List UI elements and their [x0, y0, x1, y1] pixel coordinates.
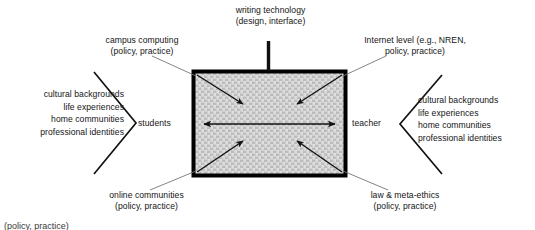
- teacher-attribute-list: cultural backgrounds life experiences ho…: [418, 94, 533, 144]
- actor-label-students: students: [138, 118, 184, 129]
- writing-technology-line-1: writing technology: [198, 5, 343, 16]
- students-attribute-list: cultural backgrounds life experiences ho…: [6, 88, 124, 138]
- writing-technology-line-2: (design, interface): [198, 16, 343, 27]
- connector-law-meta-ethics: [343, 171, 388, 190]
- teacher-attribute-item: life experiences: [418, 107, 533, 120]
- students-attribute-item: professional identities: [6, 126, 124, 139]
- node-label-internet-level: Internet level (e.g., NREN, policy, prac…: [340, 35, 490, 56]
- students-attribute-item: cultural backgrounds: [6, 88, 124, 101]
- students-attribute-item: home communities: [6, 113, 124, 126]
- connector-internet-level: [343, 56, 386, 76]
- node-label-writing-technology: writing technology (design, interface): [198, 5, 343, 26]
- connector-online-communities: [150, 171, 196, 190]
- teacher-attribute-item: cultural backgrounds: [418, 94, 533, 107]
- campus-computing-line-1: campus computing: [82, 35, 202, 46]
- figure-caption: (policy, practice): [4, 221, 304, 230]
- figure-diagram: writing technology (design, interface) c…: [0, 0, 535, 230]
- node-label-law-meta-ethics: law & meta-ethics (policy, practice): [340, 190, 470, 211]
- law-meta-ethics-line-1: law & meta-ethics: [340, 190, 470, 201]
- online-communities-line-2: (policy, practice): [84, 201, 209, 212]
- node-label-campus-computing: campus computing (policy, practice): [82, 35, 202, 56]
- internet-level-line-2: policy, practice): [340, 46, 490, 57]
- campus-computing-line-2: (policy, practice): [82, 46, 202, 57]
- connector-campus-computing: [152, 56, 196, 76]
- node-label-online-communities: online communities (policy, practice): [84, 190, 209, 211]
- teacher-attribute-item: professional identities: [418, 132, 533, 145]
- internet-level-line-1: Internet level (e.g., NREN,: [340, 35, 490, 46]
- law-meta-ethics-line-2: (policy, practice): [340, 201, 470, 212]
- actor-label-teacher: teacher: [352, 118, 394, 129]
- online-communities-line-1: online communities: [84, 190, 209, 201]
- students-attribute-item: life experiences: [6, 101, 124, 114]
- teacher-attribute-item: home communities: [418, 119, 533, 132]
